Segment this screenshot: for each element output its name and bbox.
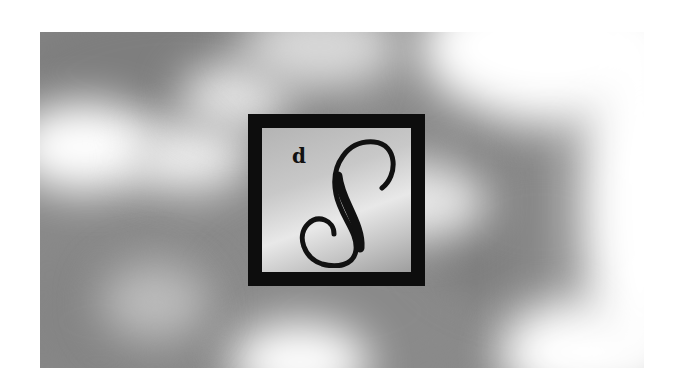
script-s-icon [286,136,396,268]
stage: d [0,0,673,391]
logo-monogram-frame: d [248,114,425,286]
